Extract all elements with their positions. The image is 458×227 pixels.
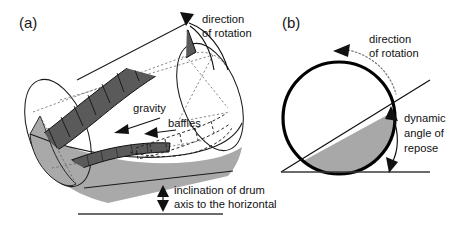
baffle-hidden-rib	[211, 121, 214, 133]
repose-label-line2: angle of	[404, 127, 445, 139]
baffle-band-upper	[35, 30, 196, 158]
rotation-label-b-line1: direction	[369, 33, 411, 45]
baffles-arrowhead	[144, 127, 158, 138]
gravity-arrowhead	[114, 124, 129, 134]
baffle-hidden-rib	[180, 134, 182, 146]
baffle-band-upper-fill	[35, 30, 196, 158]
inclination-arrowhead-down	[157, 200, 169, 212]
rotation-label-b-line2: of rotation	[369, 47, 419, 59]
baffles-label: baffles	[168, 117, 201, 129]
inclination-annotation: inclination of drum axis to the horizont…	[157, 184, 277, 212]
rotating-drum-figure: (a)	[0, 0, 458, 227]
inclination-label-line2: axis to the horizontal	[174, 198, 277, 210]
gravity-label: gravity	[133, 102, 166, 114]
inclination-label-line1: inclination of drum	[174, 184, 265, 196]
panel-b-label: (b)	[282, 14, 300, 31]
rotation-arrowhead-b	[333, 44, 350, 57]
rotation-label-a-line1: direction	[202, 13, 244, 25]
rotation-label-a-line2: of rotation	[202, 27, 252, 39]
baffle-rib	[163, 43, 170, 61]
drum-cross-hidden-2	[178, 55, 213, 122]
gravity-annotation: gravity	[114, 102, 166, 134]
drum-cross-hidden-1	[186, 56, 228, 108]
repose-arrowhead-down	[386, 157, 398, 173]
repose-label-line3: repose	[404, 142, 438, 154]
gravity-leader	[124, 118, 160, 130]
repose-label-line1: dynamic	[404, 112, 446, 124]
angle-of-repose-annotation: dynamic angle of repose	[385, 106, 446, 173]
panel-a: (a)	[12, 12, 277, 214]
panel-a-label: (a)	[19, 14, 37, 31]
panel-b: (b) direction of rotation dynamic angle …	[281, 14, 446, 200]
figure-root: (a)	[0, 0, 458, 227]
